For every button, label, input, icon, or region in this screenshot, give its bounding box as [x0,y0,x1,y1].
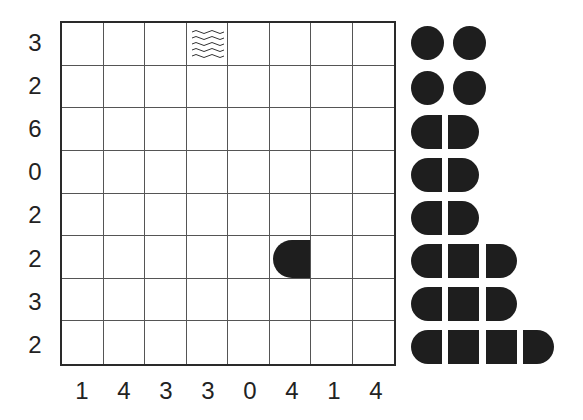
ship-end-left-icon [411,330,442,364]
grid-cell-r4-c7[interactable] [353,194,395,237]
puzzle-grid [60,21,396,366]
grid-cell-r3-c1[interactable] [104,151,146,194]
grid-cell-r2-c2[interactable] [145,108,187,151]
grid-cell-r5-c6[interactable] [311,236,353,279]
grid-cell-r5-c7[interactable] [353,236,395,279]
grid-cell-r7-c4[interactable] [228,321,270,364]
ship-end-right-icon [486,287,517,321]
ship-end-left-icon [411,201,442,235]
row-clue: 2 [20,193,50,236]
column-clue: 3 [145,376,187,406]
grid-cell-r5-c2[interactable] [145,236,187,279]
grid-cell-r7-c2[interactable] [145,321,187,364]
row-clue: 2 [20,237,50,280]
grid-cell-r1-c3[interactable] [187,66,229,109]
column-clue: 4 [103,376,145,406]
grid-cell-r2-c6[interactable] [311,108,353,151]
grid-cell-r6-c4[interactable] [228,279,270,322]
grid-cell-r3-c2[interactable] [145,151,187,194]
grid-cell-r1-c4[interactable] [228,66,270,109]
grid-cell-r2-c1[interactable] [104,108,146,151]
grid-cell-r6-c0[interactable] [62,279,104,322]
grid-cell-r3-c6[interactable] [311,151,353,194]
row-clue: 6 [20,107,50,150]
ship-middle-icon [448,287,479,321]
grid-cell-r5-c4[interactable] [228,236,270,279]
grid-cell-r3-c5[interactable] [270,151,312,194]
grid-cell-r6-c1[interactable] [104,279,146,322]
grid-cell-r7-c3[interactable] [187,321,229,364]
ship-end-right-icon [448,201,479,235]
row-clue: 2 [20,64,50,107]
grid-cell-r7-c1[interactable] [104,321,146,364]
grid-cell-r1-c5[interactable] [270,66,312,109]
grid-cell-r1-c6[interactable] [311,66,353,109]
grid-cell-r3-c3[interactable] [187,151,229,194]
grid-cell-r3-c4[interactable] [228,151,270,194]
grid-cell-r2-c0[interactable] [62,108,104,151]
ship-middle-icon [448,330,479,364]
ship-end-right-icon [523,330,554,364]
grid-cell-r2-c4[interactable] [228,108,270,151]
grid-cell-r4-c6[interactable] [311,194,353,237]
grid-cell-r3-c7[interactable] [353,151,395,194]
row-clue: 3 [20,280,50,323]
row-clue: 2 [20,323,50,366]
grid-cell-r0-c7[interactable] [353,23,395,66]
column-clue: 1 [313,376,355,406]
grid-cell-r0-c6[interactable] [311,23,353,66]
submarine-icon [411,71,444,105]
submarine-icon [411,26,444,60]
grid-cell-r3-c0[interactable] [62,151,104,194]
grid-cell-r7-c7[interactable] [353,321,395,364]
grid-cell-r5-c1[interactable] [104,236,146,279]
ship-middle-icon [448,244,479,278]
grid-cell-r4-c1[interactable] [104,194,146,237]
grid-cell-r0-c2[interactable] [145,23,187,66]
grid-cell-r6-c2[interactable] [145,279,187,322]
grid-cell-r2-c5[interactable] [270,108,312,151]
grid-cell-r1-c1[interactable] [104,66,146,109]
ship-end-right-icon [448,158,479,192]
ship-end-left-icon [273,240,310,278]
grid-cell-r4-c4[interactable] [228,194,270,237]
grid-cell-r7-c5[interactable] [270,321,312,364]
grid-cell-r0-c0[interactable] [62,23,104,66]
grid-cell-r6-c5[interactable] [270,279,312,322]
ship-end-right-icon [486,244,517,278]
grid-cell-r0-c3[interactable] [187,23,229,66]
ship-end-right-icon [448,115,479,149]
submarine-icon [453,26,486,60]
grid-cell-r2-c3[interactable] [187,108,229,151]
grid-cell-r0-c1[interactable] [104,23,146,66]
grid-cell-r7-c0[interactable] [62,321,104,364]
row-clue: 0 [20,150,50,193]
row-clue: 3 [20,21,50,64]
ship-end-left-icon [411,287,442,321]
grid-cell-r2-c7[interactable] [353,108,395,151]
grid-cell-r5-c3[interactable] [187,236,229,279]
grid-cell-r1-c7[interactable] [353,66,395,109]
column-clue: 1 [61,376,103,406]
grid-cell-r4-c5[interactable] [270,194,312,237]
grid-cell-r5-c0[interactable] [62,236,104,279]
ship-end-left-icon [411,115,442,149]
ship-middle-icon [486,330,517,364]
column-clue: 3 [187,376,229,406]
column-clue: 4 [355,376,397,406]
grid-cell-r6-c7[interactable] [353,279,395,322]
grid-cell-r0-c5[interactable] [270,23,312,66]
grid-cell-r6-c6[interactable] [311,279,353,322]
grid-cell-r1-c0[interactable] [62,66,104,109]
grid-cell-r4-c0[interactable] [62,194,104,237]
grid-cell-r4-c3[interactable] [187,194,229,237]
grid-cell-r1-c2[interactable] [145,66,187,109]
grid-cell-r0-c4[interactable] [228,23,270,66]
grid-cell-r7-c6[interactable] [311,321,353,364]
water-waves-icon [190,26,226,62]
submarine-icon [453,71,486,105]
grid-cell-r4-c2[interactable] [145,194,187,237]
grid-cell-r6-c3[interactable] [187,279,229,322]
ship-end-left-icon [411,158,442,192]
ship-end-left-icon [411,244,442,278]
